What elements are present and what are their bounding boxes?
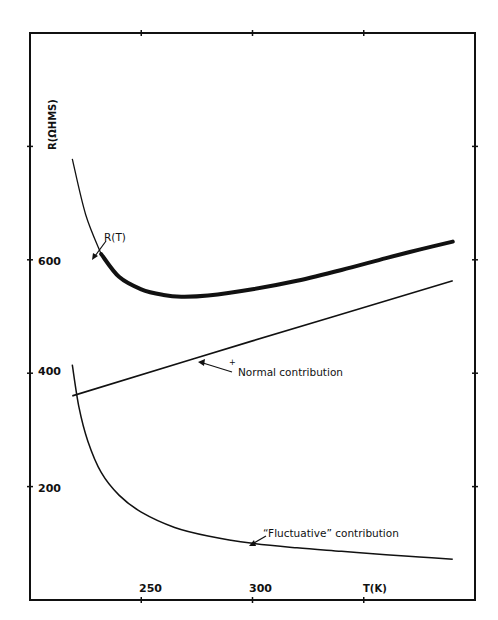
plot-frame <box>30 33 475 600</box>
annotation-normal: + Normal contribution <box>198 358 343 378</box>
normal-contribution-curve <box>72 281 452 396</box>
arrow-line <box>203 363 232 372</box>
x-axis-label: T(K) <box>363 583 387 594</box>
resistance-vs-temperature-chart: 600 400 200 250 300 R(ΩHMS) T(K) R(T) + … <box>0 0 498 620</box>
annotation-normal-label: Normal contribution <box>238 366 343 378</box>
annotation-fluctuative: “Fluctuative” contribution <box>249 527 399 546</box>
annotation-rt-label: R(T) <box>104 231 126 243</box>
axis-ticks <box>27 30 478 603</box>
rt-curve-data <box>101 242 453 297</box>
y-axis-label: R(ΩHMS) <box>47 99 58 150</box>
annotation-fluctuative-label: “Fluctuative” contribution <box>263 527 399 539</box>
rt-curve-thin <box>72 159 101 254</box>
x-tick-300: 300 <box>249 582 272 595</box>
y-tick-200: 200 <box>38 482 61 495</box>
x-tick-250: 250 <box>139 582 162 595</box>
y-tick-400: 400 <box>38 365 61 378</box>
y-tick-600: 600 <box>38 255 61 268</box>
arrow-head-icon <box>198 359 205 366</box>
annotation-normal-mark: + <box>229 358 236 367</box>
